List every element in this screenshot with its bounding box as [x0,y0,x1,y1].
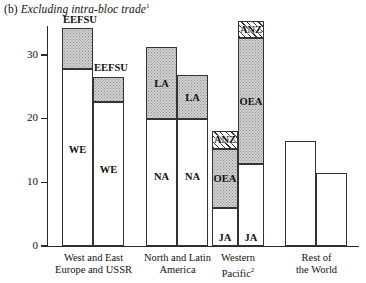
y-axis-tick-label: 0 [12,239,38,251]
bar-segment-oea: OEA [238,38,264,163]
bar-segment-la: LA [177,75,208,119]
bar-segment-na: NA [146,119,177,246]
y-axis-tick-label: 30 [12,48,38,60]
bar-segment-we: WE [93,102,124,246]
bar-2-1: NALA [146,47,177,246]
bar-segment-row [285,141,316,246]
group-label-line: the World [247,264,366,276]
bar-1-1: WE [62,28,93,246]
segment-label-oea: OEA [214,173,237,184]
bar-callout-eefsu: EEFSU [94,62,128,73]
segment-label-we: WE [69,144,87,155]
bar-segment-ja: JA [238,164,264,246]
bar-segment-eefsu [62,28,93,69]
chart-title-prefix: (b) [4,3,18,15]
bar-4-1 [285,141,316,246]
bar-3-1: JAOEAANZ [212,131,238,246]
bar-segment-row [316,173,347,246]
bar-callout-eefsu: EEFSU [63,14,97,25]
y-axis-tick-label: 20 [12,111,38,123]
bar-segment-anz: ANZ [212,131,238,149]
bar-segment-anz: ANZ [238,21,264,39]
y-axis-tick-label: 10 [12,175,38,187]
segment-label-la: LA [154,78,169,89]
y-axis-tick [41,245,47,246]
y-axis-tick [41,182,47,183]
bar-2-2: NALA [177,75,208,246]
chart-title-footnote-marker: 1 [146,2,150,10]
group-label-line: Rest of [247,252,366,264]
segment-label-la: LA [185,92,200,103]
bar-segment-we: WE [62,69,93,246]
segment-label-na: NA [154,171,169,182]
bar-segment-eefsu [93,77,124,102]
y-axis-line [47,26,48,246]
chart-container: (b) Excluding intra-bloc trade1 0102030 … [0,0,366,283]
y-axis-tick [41,118,47,119]
bar-4-2 [316,173,347,246]
segment-label-ja: JA [245,232,258,243]
group-label-4: Rest ofthe World [247,252,366,277]
bar-1-2: WE [93,77,124,246]
segment-label-we: WE [100,164,118,175]
segment-label-na: NA [185,171,200,182]
y-axis-tick [41,54,47,55]
bar-segment-oea: OEA [212,149,238,208]
segment-label-ja: JA [219,232,232,243]
bar-segment-ja: JA [212,208,238,246]
segment-label-anz: ANZ [240,24,262,35]
bar-segment-na: NA [177,119,208,246]
bar-segment-la: LA [146,47,177,119]
segment-label-oea: OEA [240,96,263,107]
bar-3-2: JAOEAANZ [238,21,264,246]
segment-label-anz: ANZ [214,134,236,145]
